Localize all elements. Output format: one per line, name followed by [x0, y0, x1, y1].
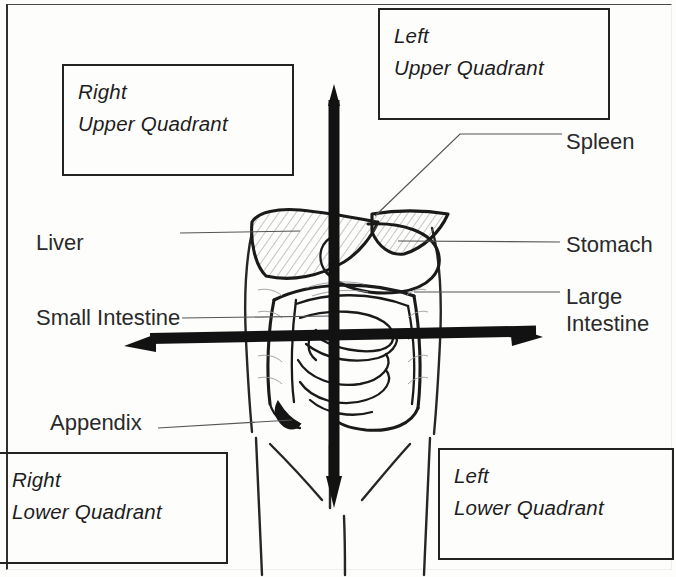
leader-line-small-intestine: [182, 316, 330, 318]
quadrant-box-left-lower: Left Lower Quadrant: [438, 448, 674, 560]
organ-label-large-intestine-line2: Intestine: [566, 310, 649, 337]
quadrant-label-line1: Right: [12, 464, 226, 496]
organ-label-large-intestine: Large Intestine: [566, 283, 649, 337]
liver-organ: [252, 210, 378, 279]
quadrant-label-line1: Left: [394, 20, 608, 52]
quadrant-label-line1: Left: [454, 460, 672, 492]
diagram-canvas: Right Upper Quadrant Left Upper Quadrant…: [0, 0, 676, 577]
leader-line-spleen: [375, 134, 562, 216]
organ-label-spleen: Spleen: [566, 129, 635, 155]
quadrant-box-right-upper: Right Upper Quadrant: [62, 64, 294, 176]
quadrant-label-line2: Upper Quadrant: [78, 108, 292, 140]
quadrant-box-left-upper: Left Upper Quadrant: [378, 8, 610, 120]
organ-label-stomach: Stomach: [566, 232, 653, 258]
organ-label-appendix: Appendix: [50, 410, 142, 436]
quadrant-label-line1: Right: [78, 76, 292, 108]
quadrant-label-line2: Lower Quadrant: [12, 496, 226, 528]
organ-label-liver: Liver: [36, 230, 84, 256]
organ-label-large-intestine-line1: Large: [566, 283, 649, 310]
quadrant-box-right-lower: Right Lower Quadrant: [0, 452, 228, 564]
appendix-organ: [276, 402, 300, 429]
quadrant-label-line2: Upper Quadrant: [394, 52, 608, 84]
organ-label-small-intestine: Small Intestine: [36, 305, 180, 331]
small-intestine-organ: [298, 312, 397, 415]
quadrant-label-line2: Lower Quadrant: [454, 492, 672, 524]
leader-line-appendix: [158, 420, 292, 428]
large-intestine-organ: [268, 285, 420, 430]
